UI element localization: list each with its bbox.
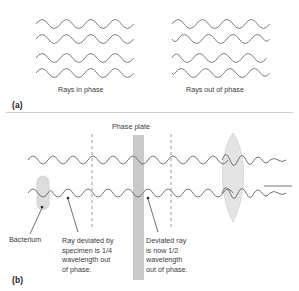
label-rays-in-phase: Rays in phase (58, 86, 104, 93)
wave-right-2 (172, 35, 270, 44)
wave-left-4 (36, 69, 134, 78)
deviated-quarter-line-2: specimen is 1/4 (62, 246, 126, 256)
deviated-half-line-2: is now 1/2 (146, 246, 210, 256)
undeviated-ray-wave (28, 156, 228, 164)
deviated-half-line-3: wavelength (146, 255, 210, 265)
leader-bacterium (30, 208, 42, 234)
wave-right-3 (172, 54, 267, 63)
bacterium-shape (37, 176, 49, 210)
label-rays-out-of-phase: Rays out of phase (186, 86, 244, 93)
deviated-quarter-line-1: Ray deviated by (62, 236, 126, 246)
panel-a-letter: (a) (12, 100, 23, 110)
deviated-ray-wave (28, 189, 233, 197)
label-bacterium: Bacterium (9, 236, 41, 243)
objective-lens-shape (223, 133, 244, 222)
wave-left-3 (36, 54, 134, 63)
label-deviated-quarter: Ray deviated by specimen is 1/4 waveleng… (62, 236, 126, 274)
wave-right-4 (172, 69, 270, 78)
label-phase-plate: Phase plate (112, 122, 150, 131)
deviated-quarter-line-3: wavelength out (62, 255, 126, 265)
panel-b-letter: (b) (12, 275, 23, 285)
leader-quarter (68, 199, 78, 232)
dot-quarter (67, 197, 70, 200)
wave-right-1 (172, 20, 270, 29)
panel-divider (6, 112, 293, 113)
wave-left-2 (36, 35, 134, 44)
label-deviated-half: Deviated ray is now 1/2 wavelength out o… (146, 236, 210, 274)
deviated-quarter-line-4: of phase. (62, 265, 126, 275)
deviated-half-line-4: out of phase. (146, 265, 210, 275)
panel-a-left-wave-group (36, 20, 134, 78)
dot-half (147, 197, 150, 200)
leader-half (148, 199, 158, 232)
panel-a-right-wave-group (172, 20, 270, 78)
dot-bacterium (41, 206, 44, 209)
wave-left-1 (36, 20, 134, 29)
phase-contrast-microscopy-figure: Rays in phase Rays out of phase (a) Phas… (0, 0, 299, 291)
deviated-half-line-1: Deviated ray (146, 236, 210, 246)
